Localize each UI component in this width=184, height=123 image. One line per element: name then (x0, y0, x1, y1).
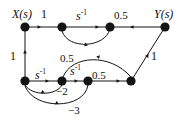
node-n5 (20, 76, 29, 85)
output-label: Y(s) (154, 8, 173, 20)
gain-label-left-one: 1 (10, 50, 16, 62)
arrowhead-n5-to-n6 (46, 79, 50, 83)
node-y (160, 22, 169, 31)
node-n3 (105, 22, 114, 31)
gain-label-negative-three: −3 (68, 105, 80, 116)
node-n2 (57, 22, 66, 31)
gain-bottom-s1-exponent: -1 (40, 67, 46, 76)
arrowhead-x-to-n2 (38, 25, 42, 29)
edge-layer (23, 25, 165, 104)
edge-n3-to-n2-feedback (62, 29, 110, 44)
arrowhead-y-to-n3 (130, 25, 134, 29)
gain-label-top-s-inverse: s-1 (76, 9, 87, 22)
arrowhead-n7-to-n8 (117, 79, 121, 83)
edge-n8-to-y (131, 27, 165, 81)
gain-bottom-s2-exponent: -1 (75, 63, 81, 72)
gain-label-bottom-s-inverse-left: s-1 (35, 68, 46, 81)
gain-label-bottom-half: 0.5 (92, 70, 106, 81)
gain-label-top-one: 1 (41, 8, 47, 20)
arrowhead-n2-to-n3 (96, 25, 100, 29)
gain-label-mid-half: 0.5 (60, 53, 74, 64)
node-n8 (126, 76, 135, 85)
gain-top-s-exponent: -1 (81, 8, 87, 17)
gain-label-negative-two: −2 (56, 86, 68, 97)
gain-label-top-half: 0.5 (114, 10, 128, 21)
arrowhead-n6-to-n7 (75, 79, 79, 83)
input-label: X(s) (12, 8, 32, 20)
arrowhead-n6-to-n8-forward (96, 55, 100, 59)
gain-label-bottom-s-inverse-right: s-1 (70, 64, 81, 77)
signal-flow-graph-figure: X(s) Y(s) 1 s-1 0.5 1 1 0.5 s-1 s-1 0.5 … (0, 0, 184, 123)
node-x (20, 22, 29, 31)
arrowhead-n5-to-x (23, 50, 27, 54)
gain-label-right-one: 1 (151, 50, 157, 62)
